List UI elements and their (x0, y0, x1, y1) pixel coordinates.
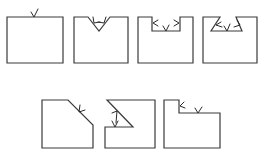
surface-finish-icon (234, 20, 240, 27)
figure-plain-block (7, 9, 63, 63)
surface-finish-icon (112, 121, 118, 127)
diagram-canvas (0, 0, 258, 162)
figure-chamfered-corner-block (42, 100, 93, 148)
figure-dovetail-slot-block (203, 17, 257, 63)
surface-finish-icon (195, 107, 202, 113)
surface-finish-icon (31, 9, 38, 17)
surface-finish-icon (224, 24, 230, 31)
figure-stepped-block (164, 100, 220, 148)
figure-angled-step-block (105, 100, 155, 148)
figure-rectangular-slot-block (138, 17, 193, 63)
surface-finish-icon (163, 25, 169, 31)
surface-finish-icon (112, 111, 117, 123)
surface-finish-icon (153, 20, 158, 26)
surface-finish-icon (180, 102, 185, 108)
surface-finish-icon (98, 17, 106, 23)
figure-v-notch-block (74, 17, 128, 63)
surface-finish-icon (174, 20, 179, 26)
surface-finish-icon (79, 105, 85, 112)
